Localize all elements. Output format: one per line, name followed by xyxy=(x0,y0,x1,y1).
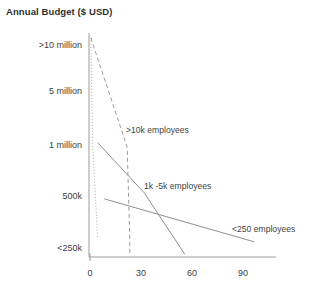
x-axis-tick-label: 60 xyxy=(187,268,197,278)
chart-screenshot: Annual Budget ($ USD) >10 million 5 mill… xyxy=(0,0,320,291)
chart-series-line xyxy=(98,143,185,255)
series-annotation-1k-5k: 1k -5k employees xyxy=(144,181,211,191)
y-axis-tick-label: <250k xyxy=(4,243,82,253)
series-annotation-under-250: <250 employees xyxy=(232,224,295,234)
x-axis-tick-label: 0 xyxy=(87,268,92,278)
y-axis-tick-label: 1 million xyxy=(4,140,82,150)
x-axis-tick-label: 90 xyxy=(238,268,248,278)
y-axis-tick-label: 500k xyxy=(4,191,82,201)
chart-series-line xyxy=(91,38,130,256)
chart-series-group xyxy=(91,38,254,256)
chart-series-line xyxy=(104,199,254,242)
y-axis-tick-label: 5 million xyxy=(4,86,82,96)
chart-series-line xyxy=(91,38,98,238)
series-annotation-over-10k: >10k employees xyxy=(126,125,189,135)
x-axis-tick-label: 30 xyxy=(136,268,146,278)
y-axis-tick-label: >10 million xyxy=(4,40,82,50)
